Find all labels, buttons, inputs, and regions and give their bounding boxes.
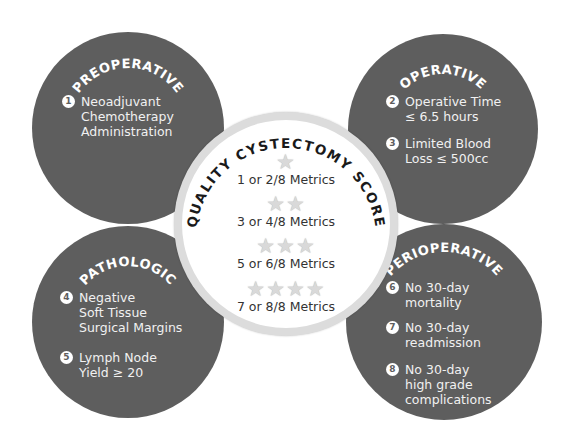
metric-item: 4 Negative Soft Tissue Surgical Margins: [60, 290, 182, 335]
metric-number-badge: 2: [386, 95, 399, 108]
star-icon: ★: [182, 152, 390, 172]
score-tier: ★★★★ 7 or 8/8 Metrics: [182, 279, 390, 314]
tier-label: 7 or 8/8 Metrics: [182, 300, 390, 314]
tier-label: 1 or 2/8 Metrics: [182, 173, 390, 187]
metric-text: Operative Time ≤ 6.5 hours: [405, 94, 501, 124]
preoperative-title: PREOPERATIVE: [69, 56, 187, 96]
score-tier: ★ 1 or 2/8 Metrics: [182, 152, 390, 187]
metric-item: 2 Operative Time ≤ 6.5 hours: [386, 94, 501, 124]
metric-number-badge: 1: [62, 95, 75, 108]
metric-item: 3 Limited Blood Loss ≤ 500cc: [386, 136, 491, 166]
pathologic-title: PATHOLOGIC: [77, 254, 180, 288]
perioperative-title: PERIOPERATIVE: [382, 240, 506, 279]
tier-label: 3 or 4/8 Metrics: [182, 215, 390, 229]
tier-label: 5 or 6/8 Metrics: [182, 257, 390, 271]
metric-number-badge: 5: [60, 351, 73, 364]
svg-text:PERIOPERATIVE: PERIOPERATIVE: [382, 240, 506, 279]
score-tier: ★★ 3 or 4/8 Metrics: [182, 194, 390, 229]
score-circle: QUALITY CYSTECTOMY SCORE ★ 1 or 2/8 Metr…: [182, 120, 390, 328]
metric-item: 6 No 30-day mortality: [386, 280, 469, 310]
star-icon: ★★★: [182, 236, 390, 256]
metric-text: No 30-day readmission: [405, 320, 481, 350]
metric-item: 5 Lymph Node Yield ≥ 20: [60, 350, 157, 380]
score-tier: ★★★ 5 or 6/8 Metrics: [182, 236, 390, 271]
svg-text:PATHOLOGIC: PATHOLOGIC: [77, 254, 180, 288]
metric-text: No 30-day high grade complications: [405, 362, 492, 407]
svg-text:OPERATIVE: OPERATIVE: [397, 62, 490, 92]
metric-text: Limited Blood Loss ≤ 500cc: [405, 136, 491, 166]
metric-text: No 30-day mortality: [405, 280, 469, 310]
metric-number-badge: 4: [60, 291, 73, 304]
metric-number-badge: 8: [386, 363, 399, 376]
metric-text: Lymph Node Yield ≥ 20: [79, 350, 157, 380]
operative-title: OPERATIVE: [397, 62, 490, 92]
metric-item: 8 No 30-day high grade complications: [386, 362, 492, 407]
metric-item: 7 No 30-day readmission: [386, 320, 481, 350]
star-icon: ★★: [182, 194, 390, 214]
score-ring: QUALITY CYSTECTOMY SCORE ★ 1 or 2/8 Metr…: [174, 112, 398, 336]
metric-item: 1 Neoadjuvant Chemotherapy Administratio…: [62, 94, 174, 139]
star-icon: ★★★★: [182, 279, 390, 299]
svg-text:PREOPERATIVE: PREOPERATIVE: [69, 56, 187, 96]
metric-text: Neoadjuvant Chemotherapy Administration: [81, 94, 174, 139]
metric-text: Negative Soft Tissue Surgical Margins: [79, 290, 182, 335]
